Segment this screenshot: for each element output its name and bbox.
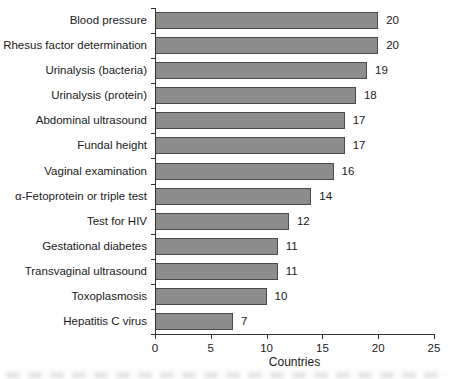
bar	[155, 163, 334, 180]
x-axis-tick	[322, 335, 323, 339]
x-axis-tick	[434, 335, 435, 339]
category-label: Hepatitis C virus	[0, 316, 147, 328]
category-label: Transvaginal ultrasound	[0, 266, 147, 278]
category-label: Toxoplasmosis	[0, 291, 147, 303]
category-label: Urinalysis (protein)	[0, 90, 147, 102]
category-label: Test for HIV	[0, 216, 147, 228]
x-tick-label: 10	[260, 343, 273, 355]
bar	[155, 37, 378, 54]
y-axis-tick	[151, 83, 155, 84]
y-axis-tick	[151, 184, 155, 185]
y-axis-tick	[151, 284, 155, 285]
y-axis-tick	[151, 33, 155, 34]
x-axis-tick	[155, 335, 156, 339]
x-axis-tick	[378, 335, 379, 339]
bar	[155, 263, 278, 280]
bar	[155, 137, 345, 154]
bar-chart: Blood pressure20Rhesus factor determinat…	[0, 0, 453, 379]
category-label: α-Fetoprotein or triple test	[0, 191, 147, 203]
value-label: 17	[353, 140, 366, 152]
value-label: 10	[275, 291, 288, 303]
y-axis-line	[155, 8, 156, 334]
y-axis-tick	[151, 259, 155, 260]
bar	[155, 188, 311, 205]
cropped-caption-remnant	[6, 372, 447, 378]
bar	[155, 288, 267, 305]
category-label: Abdominal ultrasound	[0, 115, 147, 127]
bar	[155, 12, 378, 29]
bar	[155, 313, 233, 330]
x-tick-label: 25	[428, 343, 441, 355]
value-label: 17	[353, 115, 366, 127]
x-axis-tick	[267, 335, 268, 339]
category-label: Rhesus factor determination	[0, 40, 147, 52]
value-label: 14	[319, 191, 332, 203]
value-label: 18	[364, 90, 377, 102]
x-axis-line	[155, 334, 435, 335]
y-axis-tick	[151, 58, 155, 59]
bar	[155, 87, 356, 104]
y-axis-tick	[151, 8, 155, 9]
value-label: 20	[386, 15, 399, 27]
bar	[155, 62, 367, 79]
category-label: Urinalysis (bacteria)	[0, 65, 147, 77]
bar	[155, 112, 345, 129]
value-label: 11	[286, 241, 298, 253]
value-label: 11	[286, 266, 298, 278]
value-label: 16	[342, 166, 355, 178]
value-label: 20	[386, 40, 399, 52]
bar	[155, 238, 278, 255]
category-label: Gestational diabetes	[0, 241, 147, 253]
x-tick-label: 15	[316, 343, 329, 355]
x-tick-label: 0	[152, 343, 158, 355]
value-label: 12	[297, 216, 310, 228]
x-axis-title: Countries	[269, 356, 320, 368]
y-axis-tick	[151, 309, 155, 310]
y-axis-tick	[151, 234, 155, 235]
category-label: Blood pressure	[0, 15, 147, 27]
y-axis-tick	[151, 209, 155, 210]
bar	[155, 213, 289, 230]
y-axis-tick	[151, 133, 155, 134]
category-label: Vaginal examination	[0, 166, 147, 178]
y-axis-tick	[151, 158, 155, 159]
y-axis-tick	[151, 108, 155, 109]
x-axis-tick	[211, 335, 212, 339]
x-tick-label: 20	[372, 343, 385, 355]
x-tick-label: 5	[208, 343, 214, 355]
category-label: Fundal height	[0, 140, 147, 152]
value-label: 7	[241, 316, 247, 328]
value-label: 19	[375, 65, 388, 77]
